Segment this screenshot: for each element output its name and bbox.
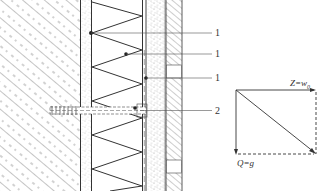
arrow-down-icon [234,149,238,155]
callout-dots [89,31,148,110]
render-layer [147,0,168,191]
force-label-z: Z=w0 [290,78,310,92]
callout-label-2: 2 [215,106,220,116]
force-label-q: Q=g [237,158,254,168]
adhesive-layer [81,0,92,191]
wall-section-diagram [0,0,326,191]
callout-label-1a: 1 [215,28,220,38]
callout-label-1b: 1 [215,49,220,59]
callout-label-1c: 1 [215,73,220,83]
brick-cladding [166,0,182,191]
arrow-right-icon [310,88,316,92]
resultant-vector [236,90,314,152]
reinforcement-mesh [143,0,147,191]
concrete-wall [0,0,81,191]
insulation-layer [92,2,142,191]
force-diagram [234,88,316,155]
force-label-z-main: Z=w [290,78,307,88]
force-label-z-sub: 0 [307,84,310,90]
